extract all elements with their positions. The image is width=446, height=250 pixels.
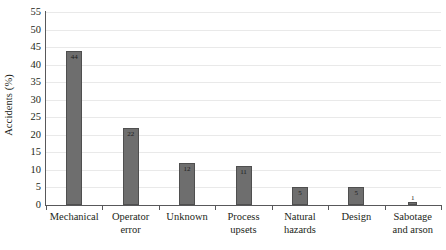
x-axis-category-label: Unknown xyxy=(159,211,215,224)
bar-value-label: 5 xyxy=(355,189,359,197)
x-axis-tick xyxy=(46,205,47,210)
x-axis-tick xyxy=(102,205,103,210)
bar-value-label: 22 xyxy=(127,130,134,138)
bar: 44 xyxy=(66,51,82,205)
x-axis-tick xyxy=(441,205,442,210)
x-axis-category-label-line: Design xyxy=(328,211,384,224)
x-axis-line xyxy=(45,205,442,206)
y-axis-tick-label: 25 xyxy=(1,112,41,123)
x-axis-category-label-line: hazards xyxy=(272,224,328,237)
x-axis-category-label-line: Sabotage xyxy=(385,211,441,224)
bar: 11 xyxy=(236,166,252,205)
bar-chart: Accidents (%) 0510152025303540455055 442… xyxy=(0,0,446,250)
x-axis-category-label-line: Natural xyxy=(272,211,328,224)
x-axis-tick xyxy=(385,205,386,210)
bar: 5 xyxy=(292,187,308,205)
y-axis-tick-label: 35 xyxy=(1,77,41,88)
bar: 5 xyxy=(348,187,364,205)
bar-value-label: 12 xyxy=(184,165,191,173)
x-axis-category-label: Naturalhazards xyxy=(272,211,328,236)
x-axis-category-label-line: upsets xyxy=(215,224,271,237)
y-axis-tick-label: 45 xyxy=(1,42,41,53)
y-axis-tick-label: 5 xyxy=(1,182,41,193)
y-axis-tick-label: 30 xyxy=(1,95,41,106)
y-axis-tick-label: 55 xyxy=(1,7,41,18)
bar: 22 xyxy=(123,128,139,205)
x-axis-category-label: Sabotageand arson xyxy=(385,211,441,236)
x-axis-tick xyxy=(272,205,273,210)
bar: 12 xyxy=(179,163,195,205)
x-axis-tick xyxy=(215,205,216,210)
bar-value-label: 44 xyxy=(71,53,78,61)
x-axis-category-label-line: and arson xyxy=(385,224,441,237)
x-axis-category-label: Operatorerror xyxy=(102,211,158,236)
x-axis-category-label-line: error xyxy=(102,224,158,237)
y-axis-tick-label: 15 xyxy=(1,147,41,158)
x-axis-tick xyxy=(159,205,160,210)
y-axis-tick-labels: 0510152025303540455055 xyxy=(0,0,41,250)
bar-value-label: 11 xyxy=(240,168,247,176)
plot-area: 44221211551 xyxy=(46,12,441,205)
bar-value-label: 5 xyxy=(298,189,302,197)
y-axis-tick-label: 40 xyxy=(1,60,41,71)
x-axis-category-label: Processupsets xyxy=(215,211,271,236)
x-axis-category-label-line: Operator xyxy=(102,211,158,224)
y-axis-tick-label: 50 xyxy=(1,25,41,36)
bar: 1 xyxy=(408,202,417,206)
x-axis-category-label-line: Mechanical xyxy=(46,211,102,224)
y-axis-tick-label: 0 xyxy=(1,200,41,211)
y-axis-tick-label: 20 xyxy=(1,130,41,141)
x-axis-category-label-line: Process xyxy=(215,211,271,224)
x-axis-category-label: Design xyxy=(328,211,384,224)
x-axis-category-label-line: Unknown xyxy=(159,211,215,224)
x-axis-category-label: Mechanical xyxy=(46,211,102,224)
y-axis-tick-label: 10 xyxy=(1,165,41,176)
bar-value-label: 1 xyxy=(411,194,415,202)
x-axis-tick xyxy=(328,205,329,210)
